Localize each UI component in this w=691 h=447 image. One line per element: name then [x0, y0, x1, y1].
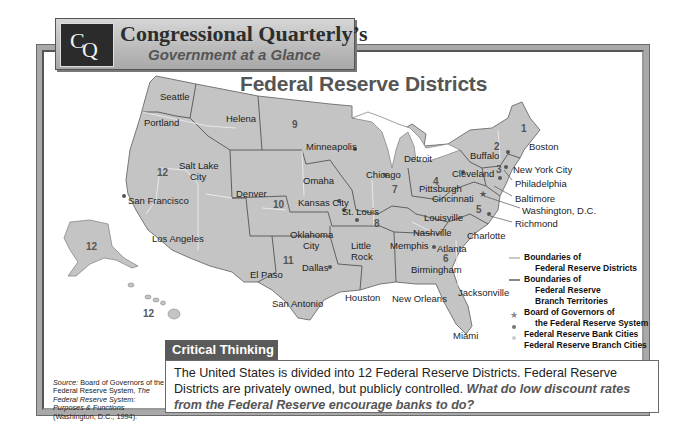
city-label: Detroit — [404, 153, 432, 164]
city-label: Charlotte — [467, 230, 506, 241]
map-legend: Boundaries of Federal Reserve Districts … — [508, 252, 648, 351]
logo-q: Q — [82, 37, 98, 63]
legend-text: Federal Reserve Branch Cities — [524, 340, 647, 350]
city-label: Atlanta — [437, 243, 467, 254]
city-label: New York City — [513, 164, 572, 175]
source-citation: Source: Board of Governors of the Federa… — [53, 379, 165, 421]
legend-text: Board of Governors of — [524, 307, 615, 317]
city-label: Omaha — [303, 175, 334, 186]
district-number: 5 — [476, 204, 482, 215]
city-label: City — [303, 240, 319, 251]
critical-thinking-heading: Critical Thinking — [165, 340, 278, 360]
district-number: 12 — [157, 167, 168, 178]
city-label: Seattle — [160, 91, 190, 102]
source-text-end: (Washington, D.C., 1994). — [53, 412, 137, 421]
header-title: Congressional Quarterly’s — [120, 21, 368, 47]
district-number: 6 — [443, 253, 449, 264]
district-number: 9 — [292, 119, 298, 130]
city-label: Chicago — [366, 169, 401, 180]
city-label: Houston — [345, 292, 380, 303]
legend-text: Federal Reserve Districts — [535, 263, 637, 273]
city-label: Louisville — [424, 212, 463, 223]
legend-text: Boundaries of — [524, 274, 581, 284]
legend-text: Branch Territories — [535, 296, 608, 306]
city-label: Oklahoma — [290, 229, 333, 240]
legend-bank-cities: Federal Reserve Bank Cities — [508, 329, 648, 340]
board-of-governors-star: ★ — [479, 189, 487, 199]
city-label: Rock — [351, 251, 373, 262]
city-label: Birmingham — [411, 264, 462, 275]
city-label: Jacksonville — [458, 287, 509, 298]
city-label: Helena — [226, 113, 256, 124]
city-label: Minneapolis — [306, 141, 357, 152]
svg-text:★: ★ — [479, 189, 487, 199]
legend-text: the Federal Reserve System — [535, 318, 648, 328]
city-label: Memphis — [390, 240, 429, 251]
city-label: El Paso — [250, 269, 283, 280]
district-number: 3 — [496, 164, 502, 175]
city-label: Los Angeles — [152, 233, 204, 244]
city-label: Dallas — [302, 262, 328, 273]
city-label: Salt Lake — [179, 160, 219, 171]
legend-text: Boundaries of — [524, 252, 581, 262]
legend-text-line: Federal Reserve — [508, 285, 648, 296]
map-title: Federal Reserve Districts — [240, 72, 487, 96]
city-label: Portland — [144, 117, 179, 128]
district-number: 8 — [374, 218, 380, 229]
district-number: 4 — [433, 176, 439, 187]
city-label: Cleveland — [452, 168, 494, 179]
city-label: Philadelphia — [515, 178, 567, 189]
legend-branch-cities: Federal Reserve Branch Cities — [508, 340, 648, 351]
city-label: San Antonio — [272, 298, 323, 309]
legend-text-line: Branch Territories — [508, 296, 648, 307]
header-subtitle: Government at a Glance — [148, 46, 321, 63]
city-label: City — [190, 171, 206, 182]
district-number: 10 — [273, 199, 284, 210]
alaska-shape — [64, 220, 138, 276]
district-number: 7 — [392, 184, 398, 195]
legend-text-line: the Federal Reserve System — [508, 318, 648, 329]
city-label: Miami — [453, 330, 478, 341]
legend-district-boundaries: Boundaries of — [508, 252, 648, 263]
district-number: 11 — [283, 255, 294, 266]
header-banner: C Q Congressional Quarterly’s Government… — [55, 18, 355, 70]
city-label: San Francisco — [128, 195, 189, 206]
district-number: 12 — [86, 241, 97, 252]
legend-board-of-governors: Board of Governors of — [508, 307, 648, 318]
city-label: St. Louis — [342, 206, 379, 217]
city-label: Baltimore — [515, 193, 555, 204]
city-label: New Orleans — [392, 293, 447, 304]
city-label: Boston — [529, 141, 559, 152]
district-number: 1 — [521, 123, 527, 134]
legend-branch-boundaries: Boundaries of — [508, 274, 648, 285]
legend-text: Federal Reserve Bank Cities — [524, 329, 638, 339]
legend-text-line: Federal Reserve Districts — [508, 263, 648, 274]
district-number: 12 — [143, 308, 154, 319]
cq-logo: C Q — [60, 23, 114, 67]
city-label: Nashville — [413, 227, 452, 238]
city-label: Denver — [236, 188, 267, 199]
district-number: 2 — [494, 141, 500, 152]
city-label: Cincinnati — [432, 193, 474, 204]
city-label: Little — [351, 240, 371, 251]
city-label: Washington, D.C. — [522, 205, 596, 216]
city-label: Richmond — [515, 218, 558, 229]
critical-thinking-box: The United States is divided into 12 Fed… — [165, 360, 659, 413]
legend-text: Federal Reserve — [535, 285, 601, 295]
